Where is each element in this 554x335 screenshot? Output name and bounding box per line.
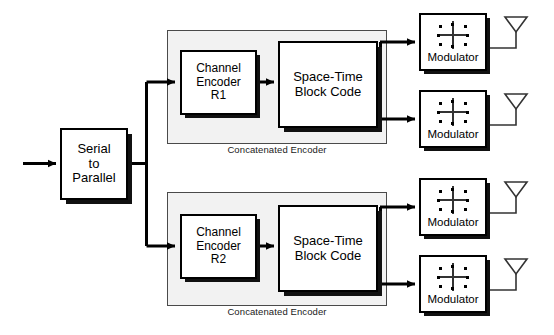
block-space-time-block-code-lower[interactable]: Space-Time Block Code [278,205,378,292]
channel-encoder-r2-line3: R2 [211,253,226,266]
antenna-icon-2 [489,94,527,125]
serial-to-parallel-line2: to [89,157,100,172]
antenna-icon-3 [489,182,527,213]
constellation-icon-4 [433,262,473,292]
block-space-time-block-code-upper[interactable]: Space-Time Block Code [278,41,378,128]
block-diagram-canvas: Concatenated Encoder Concatenated Encode… [0,0,554,335]
channel-encoder-r1-line1: Channel [196,62,241,75]
constellation-icon-1 [433,20,473,50]
wire-upper-stbc-to-modulators [380,42,415,119]
channel-encoder-r2-line2: Encoder [196,240,241,253]
wire-lower-stbc-to-modulators [380,207,415,284]
stbc-lower-line2: Block Code [295,249,361,264]
modulator-3-label: Modulator [427,216,478,229]
modulator-4-label: Modulator [427,293,478,306]
wire-serial-split [128,82,175,246]
channel-encoder-r1-line2: Encoder [196,76,241,89]
channel-encoder-r2-line1: Channel [196,226,241,239]
stbc-upper-line2: Block Code [295,85,361,100]
serial-to-parallel-line1: Serial [77,142,110,157]
block-modulator-4[interactable]: Modulator [419,255,487,313]
stbc-lower-line1: Space-Time [293,234,363,249]
block-channel-encoder-r1[interactable]: Channel Encoder R1 [180,50,257,115]
channel-encoder-r1-line3: R1 [211,89,226,102]
constellation-icon-2 [433,97,473,127]
antenna-icon-4 [489,259,527,290]
block-modulator-3[interactable]: Modulator [419,178,487,236]
block-modulator-1[interactable]: Modulator [419,13,487,71]
antenna-icon-1 [489,17,527,48]
block-serial-to-parallel[interactable]: Serial to Parallel [60,128,128,200]
modulator-2-label: Modulator [427,128,478,141]
serial-to-parallel-line3: Parallel [72,171,115,186]
block-modulator-2[interactable]: Modulator [419,90,487,148]
modulator-1-label: Modulator [427,51,478,64]
block-channel-encoder-r2[interactable]: Channel Encoder R2 [180,214,257,279]
stbc-upper-line1: Space-Time [293,70,363,85]
constellation-icon-3 [433,185,473,215]
